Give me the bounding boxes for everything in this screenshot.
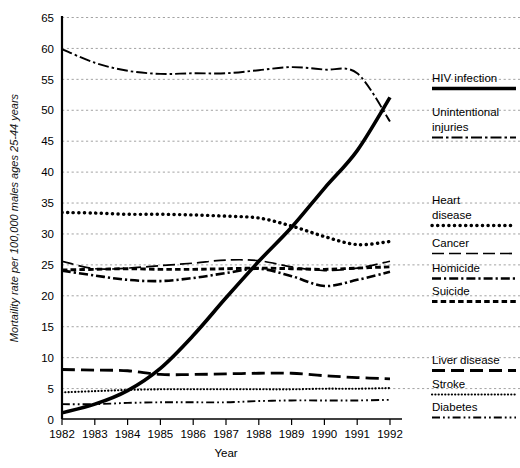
y-tick-label: 45: [41, 135, 54, 147]
y-tick-label: 0: [48, 414, 54, 426]
y-tick-label: 35: [41, 197, 54, 209]
y-tick-label: 30: [41, 228, 54, 240]
series-line-suicide: [62, 267, 390, 270]
series-line-liver-disease: [62, 370, 390, 379]
legend-item-stroke[interactable]: Stroke: [432, 378, 516, 395]
legend-label: Stroke: [432, 378, 465, 390]
y-tick-label: 60: [41, 43, 54, 55]
x-tick-label: 1990: [312, 428, 338, 440]
y-axis-title: Mortaility rate per 100,000 males ages 2…: [8, 93, 20, 342]
legend-label: Cancer: [432, 237, 469, 249]
y-tick-label: 20: [41, 290, 54, 302]
chart-container: 0510152025303540455055606519821983198419…: [0, 0, 520, 468]
series-line-heart-disease: [62, 212, 390, 244]
x-tick-label: 1984: [115, 428, 141, 440]
mortality-line-chart: 0510152025303540455055606519821983198419…: [0, 0, 520, 468]
x-tick-label: 1991: [344, 428, 370, 440]
y-tick-label: 10: [41, 352, 54, 364]
series-line-homicide: [62, 269, 390, 286]
legend-label: Homicide: [432, 262, 480, 274]
x-tick-label: 1989: [279, 428, 305, 440]
legend-item-unintentional-injuries[interactable]: Unintentionalinjuries: [432, 106, 516, 138]
x-tick-label: 1982: [49, 428, 75, 440]
y-tick-label: 50: [41, 104, 54, 116]
legend-item-hiv-infection[interactable]: HIV infection: [432, 72, 516, 89]
x-tick-label: 1988: [246, 428, 272, 440]
legend-label: HIV infection: [432, 72, 497, 84]
y-tick-label: 15: [41, 321, 54, 333]
legend-item-cancer[interactable]: Cancer: [432, 237, 516, 254]
legend-label: disease: [432, 209, 472, 221]
y-tick-label: 55: [41, 74, 54, 86]
legend-label: Unintentional: [432, 106, 499, 118]
legend-item-diabetes[interactable]: Diabetes: [432, 401, 516, 418]
legend-label: Liver disease: [432, 354, 500, 366]
legend-item-suicide[interactable]: Suicide: [432, 285, 516, 302]
legend-item-homicide[interactable]: Homicide: [432, 262, 516, 279]
legend-item-liver-disease[interactable]: Liver disease: [432, 354, 516, 371]
legend-label: Diabetes: [432, 401, 478, 413]
legend-label: Suicide: [432, 285, 470, 297]
x-tick-label: 1985: [148, 428, 174, 440]
legend-label: injuries: [432, 121, 469, 133]
y-tick-label: 65: [41, 12, 54, 24]
legend-label: Heart: [432, 194, 461, 206]
series-line-diabetes: [62, 400, 390, 404]
series-line-hiv-infection: [62, 97, 390, 412]
x-tick-label: 1987: [213, 428, 239, 440]
x-axis-title: Year: [214, 447, 237, 459]
series-group: [62, 49, 390, 413]
y-tick-label: 5: [48, 383, 54, 395]
legend: HIV infectionUnintentionalinjuriesHeartd…: [432, 72, 516, 418]
y-tick-label: 25: [41, 259, 54, 271]
legend-item-heart-disease[interactable]: Heartdisease: [432, 194, 516, 226]
x-tick-label: 1983: [82, 428, 108, 440]
x-tick-label: 1986: [180, 428, 206, 440]
y-tick-label: 40: [41, 166, 54, 178]
x-tick-label: 1992: [377, 428, 403, 440]
